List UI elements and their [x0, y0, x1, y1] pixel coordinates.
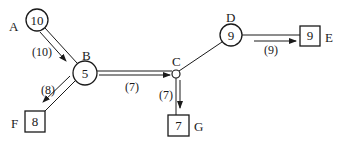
node-b-label: B: [82, 49, 91, 62]
node-e-label: E: [325, 31, 333, 44]
node-g-label: G: [194, 120, 203, 133]
node-e-value: 9: [300, 29, 320, 42]
flow-a-b: (10): [32, 46, 52, 58]
node-a-label: A: [9, 20, 18, 33]
edge-b-c: [97, 71, 172, 75]
node-f-label: F: [11, 117, 18, 130]
node-d-label: D: [226, 11, 235, 24]
node-c-circle: [172, 70, 180, 78]
node-a-value: 10: [27, 14, 47, 27]
flow-c-g: (7): [159, 89, 173, 101]
node-c-label: C: [172, 55, 181, 68]
flow-d-e: (9): [264, 44, 278, 56]
node-d-value: 9: [221, 29, 241, 42]
node-f-value: 8: [25, 115, 45, 128]
edge-d-e: [242, 35, 300, 41]
node-b-value: 5: [75, 67, 95, 80]
edge-c-d: [179, 42, 222, 71]
flow-b-c: (7): [125, 81, 139, 93]
node-g-value: 7: [168, 119, 189, 132]
flow-b-f: (8): [41, 84, 55, 96]
edge-c-g: [176, 78, 180, 115]
